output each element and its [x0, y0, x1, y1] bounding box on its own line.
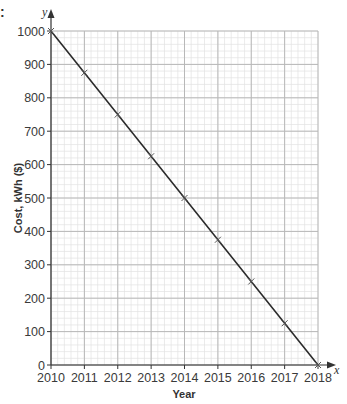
- y-axis-label: Cost, kWh ($): [12, 163, 24, 234]
- svg-text:500: 500: [24, 192, 45, 206]
- x-axis-variable: x: [333, 363, 340, 377]
- svg-text:700: 700: [24, 125, 45, 139]
- svg-text:200: 200: [24, 292, 45, 306]
- svg-text:2013: 2013: [137, 371, 165, 385]
- svg-text:100: 100: [24, 325, 45, 339]
- svg-text:900: 900: [24, 58, 45, 72]
- svg-text:400: 400: [24, 225, 45, 239]
- svg-text:1000: 1000: [17, 25, 45, 39]
- svg-text:600: 600: [24, 158, 45, 172]
- x-axis-label: Year: [172, 388, 196, 400]
- x-tick-labels: 201020112012201320142015201620172018: [37, 365, 332, 385]
- svg-text:2012: 2012: [104, 371, 132, 385]
- svg-text:2017: 2017: [271, 371, 299, 385]
- svg-text:2018: 2018: [304, 371, 332, 385]
- y-axis-variable: y: [41, 5, 48, 19]
- line-chart: 01002003004005006007008009001000 2010201…: [0, 0, 347, 404]
- svg-text:800: 800: [24, 91, 45, 105]
- svg-text:300: 300: [24, 258, 45, 272]
- svg-text:2011: 2011: [71, 371, 98, 385]
- svg-text:2016: 2016: [237, 371, 265, 385]
- svg-text:2015: 2015: [204, 371, 232, 385]
- svg-text:2014: 2014: [171, 371, 199, 385]
- svg-text:2010: 2010: [37, 371, 65, 385]
